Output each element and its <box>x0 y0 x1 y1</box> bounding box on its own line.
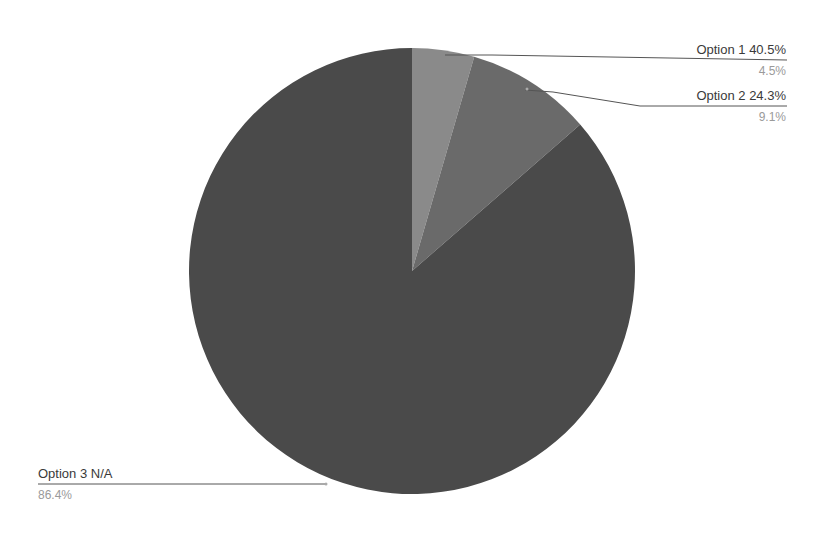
label-option-1-percent: 4.5% <box>759 64 786 78</box>
pie-slices <box>189 48 635 494</box>
label-anchor-dot-3 <box>325 483 328 486</box>
label-anchor-dot-2 <box>526 88 529 91</box>
label-option-3: Option 3 N/A <box>38 466 112 481</box>
label-option-2: Option 2 24.3% <box>696 88 786 103</box>
label-option-1: Option 1 40.5% <box>696 42 786 57</box>
label-option-2-percent: 9.1% <box>759 110 786 124</box>
pie-chart <box>0 0 819 540</box>
label-option-3-percent: 86.4% <box>38 488 72 502</box>
